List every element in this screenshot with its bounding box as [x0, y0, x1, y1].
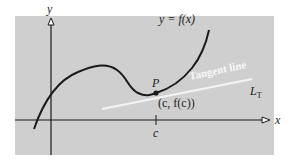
- y-axis-label: y: [46, 2, 53, 16]
- tangent-line-figure: y x c Tangent line LT y = f(x) P (c, f(c…: [0, 0, 294, 165]
- plot-panel: [15, 16, 274, 155]
- point-p: [153, 90, 158, 95]
- tick-c-label: c: [153, 126, 159, 140]
- x-axis-label: x: [274, 113, 281, 127]
- point-coords-label: (c, f(c)): [158, 96, 195, 110]
- function-label: y = f(x): [158, 12, 195, 26]
- point-p-label: P: [151, 76, 160, 90]
